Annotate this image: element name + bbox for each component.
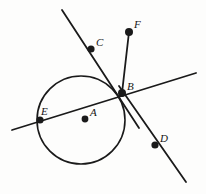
- point-C-dot: [87, 45, 94, 52]
- geometry-figure: A B C D E F: [0, 0, 206, 194]
- point-F-dot: [125, 28, 133, 36]
- point-B-dot: [118, 89, 126, 97]
- point-D-dot: [151, 141, 158, 148]
- point-label-F: F: [134, 19, 141, 30]
- circle-A: [37, 76, 125, 164]
- point-label-D: D: [160, 133, 168, 144]
- point-label-C: C: [96, 37, 103, 48]
- point-A-dot: [82, 116, 89, 123]
- line-B-D: [119, 86, 186, 182]
- point-label-E: E: [41, 106, 48, 117]
- point-label-A: A: [90, 107, 97, 118]
- lines-group: [12, 10, 196, 182]
- circle-group: [37, 76, 125, 164]
- geometry-canvas: [0, 0, 206, 194]
- point-label-B: B: [127, 81, 134, 92]
- point-E-dot: [36, 116, 43, 123]
